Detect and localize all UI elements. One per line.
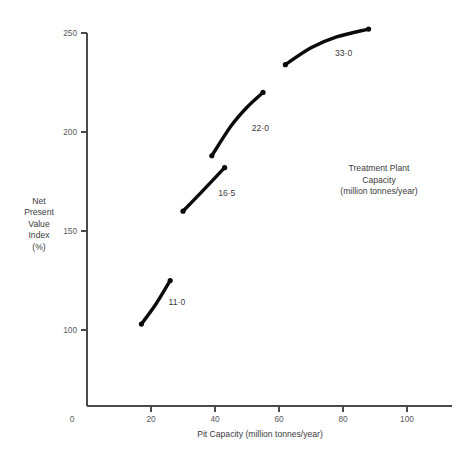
- axes: 100150200250020406080100: [63, 28, 452, 424]
- annotation-line-2: Capacity: [312, 175, 446, 187]
- annotation-line-1: Treatment Plant: [312, 163, 446, 175]
- series-label: 33·0: [335, 48, 352, 58]
- x-axis-title: Pit Capacity (million tonnes/year): [150, 429, 370, 439]
- chart-figure: 100150200250020406080100 11·016·522·033·…: [0, 0, 456, 454]
- series-endpoint-marker: [168, 278, 173, 283]
- series-label: 11·0: [169, 297, 186, 307]
- annotation-line-3: (million tonnes/year): [312, 186, 446, 198]
- x-tick-label: 20: [146, 414, 156, 424]
- y-axis-title-line-3: Value: [4, 219, 74, 230]
- series-endpoint-marker: [139, 321, 144, 326]
- y-axis-title-line-2: Present: [4, 207, 74, 218]
- series-curve: [141, 281, 170, 325]
- x-tick-label: 0: [70, 414, 75, 424]
- treatment-plant-capacity-annotation: Treatment Plant Capacity (million tonnes…: [312, 163, 446, 198]
- series-endpoint-marker: [366, 26, 371, 31]
- series-label: 22·0: [252, 123, 269, 133]
- series-endpoint-marker: [222, 165, 227, 170]
- y-axis-title-line-5: (%): [4, 242, 74, 253]
- x-tick-label: 80: [338, 414, 348, 424]
- series-endpoint-marker: [260, 90, 265, 95]
- y-tick-label: 250: [63, 28, 77, 38]
- series-endpoint-marker: [180, 209, 185, 214]
- x-tick-label: 60: [274, 414, 284, 424]
- y-axis-title-line-1: Net: [4, 196, 74, 207]
- series-curve: [285, 29, 368, 65]
- series-endpoint-marker: [283, 62, 288, 67]
- y-tick-label: 100: [63, 325, 77, 335]
- y-axis-title-line-4: Index: [4, 230, 74, 241]
- series-label: 16·5: [218, 188, 235, 198]
- x-tick-label: 100: [400, 414, 414, 424]
- y-axis-title: Net Present Value Index (%): [4, 196, 74, 253]
- y-tick-label: 200: [63, 127, 77, 137]
- series-endpoint-marker: [209, 153, 214, 158]
- x-tick-label: 40: [210, 414, 220, 424]
